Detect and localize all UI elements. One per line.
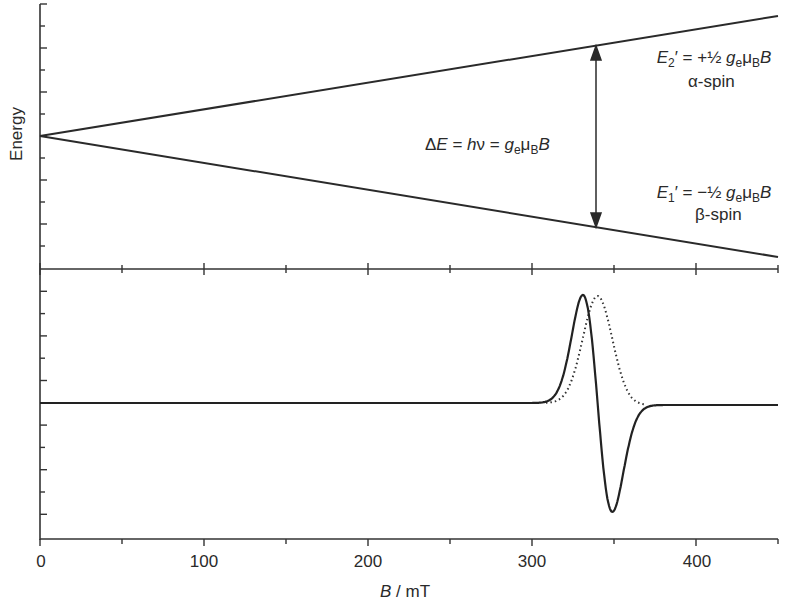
eq-rest: ′ = +½ — [675, 48, 726, 67]
y-axis-label: Energy — [7, 104, 27, 164]
eq-b: B — [760, 48, 771, 67]
eq-e: E — [657, 183, 668, 202]
eq-g-sub: e — [514, 143, 521, 157]
x-tick-label-400: 400 — [683, 552, 711, 572]
x-tick-label-300: 300 — [518, 552, 546, 572]
axis-ticks — [40, 4, 778, 546]
eq-g: g — [726, 48, 735, 67]
eq-g: g — [726, 183, 735, 202]
eq-e: E — [657, 48, 668, 67]
delta-e-arrow — [591, 46, 601, 227]
eq-b: B — [760, 183, 771, 202]
eq-mu: μ — [521, 135, 531, 154]
eq-h: h — [467, 135, 476, 154]
eq-b: B — [538, 135, 549, 154]
eq-e: E — [436, 135, 447, 154]
eq-g: g — [504, 135, 513, 154]
x-tick-label-200: 200 — [354, 552, 382, 572]
x-axis-variable: B — [380, 582, 391, 601]
eq-mu: μ — [742, 48, 752, 67]
epr-diagram — [0, 0, 787, 608]
eq-mu-sub: B — [752, 56, 760, 70]
resonance-condition-equation: ΔE = hν = geμBB — [425, 135, 550, 157]
x-tick-label-100: 100 — [190, 552, 218, 572]
eq-equals: = — [448, 135, 467, 154]
eq-mu-sub: B — [752, 191, 760, 205]
beta-spin-label: β-spin — [695, 205, 742, 225]
eq-sub: 1 — [668, 191, 675, 205]
alpha-spin-label: α-spin — [688, 72, 735, 92]
x-tick-label-0: 0 — [36, 552, 45, 572]
x-axis-unit: / mT — [391, 582, 430, 601]
eq-mu: μ — [742, 183, 752, 202]
alpha-level-equation: E2′ = +½ geμBB — [641, 48, 787, 70]
derivative-curve — [40, 295, 778, 512]
beta-level-equation: E1′ = −½ geμBB — [641, 183, 787, 205]
alpha-spin-level-line — [40, 16, 778, 136]
eq-delta: Δ — [425, 135, 436, 154]
eq-sub: 2 — [668, 56, 675, 70]
eq-equals: = — [485, 135, 504, 154]
eq-rest: ′ = −½ — [675, 183, 726, 202]
eq-nu: ν — [477, 135, 486, 154]
x-axis-label: B / mT — [380, 582, 430, 602]
